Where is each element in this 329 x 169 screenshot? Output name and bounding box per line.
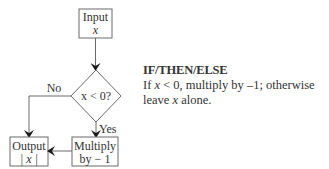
edge-yes-label: Yes	[99, 122, 117, 136]
multiply-node: Multiply by − 1	[72, 137, 118, 166]
multiply-by-neg-one: by − 1	[80, 152, 111, 166]
input-node: Input x	[79, 9, 112, 38]
edge-no	[29, 96, 71, 137]
output-label: Output	[12, 139, 46, 153]
edge-no-label: No	[47, 81, 62, 95]
body-text-2: < 0, multiply by –1; otherwise leave	[143, 78, 315, 107]
explanation-panel: IF/THEN/ELSE If x < 0, multiply by –1; o…	[143, 63, 329, 108]
body-text-1: If	[143, 78, 154, 92]
input-label: Input	[83, 10, 109, 24]
decision-label: x < 0?	[81, 89, 111, 103]
input-variable: x	[92, 23, 99, 37]
explanation-title: IF/THEN/ELSE	[143, 63, 329, 78]
explanation-body: If x < 0, multiply by –1; otherwise leav…	[143, 78, 329, 108]
multiply-label: Multiply	[74, 139, 116, 153]
output-abs-x: | x |	[20, 152, 38, 166]
body-text-3: alone.	[178, 93, 211, 107]
output-node: Output | x |	[10, 137, 48, 166]
decision-node: x < 0?	[71, 70, 121, 122]
